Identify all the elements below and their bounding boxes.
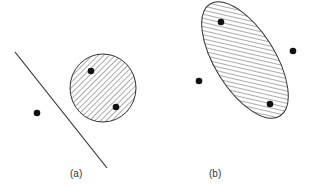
hatched-region-b xyxy=(185,0,306,132)
data-point xyxy=(34,110,41,117)
diagram-canvas xyxy=(0,0,311,187)
panel-a-label: (a) xyxy=(70,168,82,179)
data-point xyxy=(88,68,95,75)
panel-a xyxy=(15,52,136,168)
data-point xyxy=(267,101,274,108)
hatched-region-a xyxy=(70,54,136,122)
data-point xyxy=(113,104,120,111)
data-point xyxy=(196,78,203,85)
data-point xyxy=(218,19,225,26)
panel-b xyxy=(185,0,306,132)
panel-b-label: (b) xyxy=(209,168,221,179)
data-point xyxy=(290,48,297,55)
